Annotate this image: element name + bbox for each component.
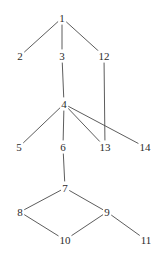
graph-node-4: 4 <box>60 99 68 110</box>
graph-edge-1-12 <box>66 22 99 52</box>
graph-edges-layer <box>0 0 167 255</box>
graph-node-7: 7 <box>61 183 69 194</box>
graph-figure: 1231245613147891011 <box>0 0 167 255</box>
graph-node-1: 1 <box>58 13 66 24</box>
graph-edge-7-9 <box>69 190 103 209</box>
graph-node-3: 3 <box>58 51 66 62</box>
graph-edge-1-2 <box>24 22 58 53</box>
graph-node-8: 8 <box>16 207 24 218</box>
graph-edge-4-5 <box>23 108 60 144</box>
graph-edge-12-13 <box>104 63 105 140</box>
graph-edge-7-8 <box>24 190 60 209</box>
graph-edge-4-14 <box>68 106 138 143</box>
graph-node-5: 5 <box>15 142 23 153</box>
graph-edge-4-6 <box>63 111 64 140</box>
graph-node-12: 12 <box>98 51 111 62</box>
graph-node-14: 14 <box>139 142 152 153</box>
graph-edge-9-10 <box>71 215 103 236</box>
graph-node-11: 11 <box>140 235 153 246</box>
graph-edge-6-7 <box>63 154 64 181</box>
graph-edge-4-13 <box>68 108 100 142</box>
graph-edge-9-11 <box>111 215 140 236</box>
graph-edge-3-4 <box>62 63 63 97</box>
graph-node-10: 10 <box>59 235 72 246</box>
graph-node-6: 6 <box>59 142 67 153</box>
graph-node-2: 2 <box>16 51 24 62</box>
graph-edge-8-10 <box>24 215 59 237</box>
graph-node-13: 13 <box>99 142 112 153</box>
graph-node-9: 9 <box>103 207 111 218</box>
